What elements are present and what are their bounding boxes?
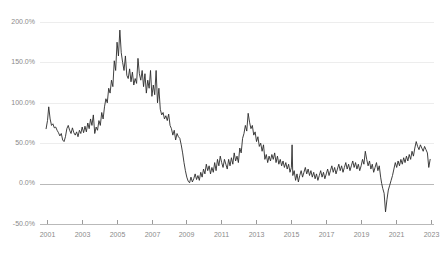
x-tick-label: 2017 <box>319 231 335 238</box>
x-tick-label: 2019 <box>354 231 370 238</box>
y-axis-tick-labels: -50.0%0.0%50.0%100.0%150.0%200.0% <box>11 18 35 227</box>
x-tick-label: 2013 <box>249 231 265 238</box>
data-series <box>46 30 430 212</box>
x-tick-label: 2023 <box>424 231 440 238</box>
x-tick-label: 2007 <box>145 231 161 238</box>
gridlines <box>40 23 434 185</box>
x-axis-tick-labels: 2001200320052007200920112013201520172019… <box>40 231 440 238</box>
y-tick-label: 0.0% <box>19 179 35 186</box>
x-tick-label: 2009 <box>179 231 195 238</box>
y-tick-label: 100.0% <box>11 99 35 106</box>
line-chart: -50.0%0.0%50.0%100.0%150.0%200.0% 200120… <box>0 0 442 259</box>
y-tick-label: 50.0% <box>15 139 35 146</box>
x-tick-label: 2015 <box>284 231 300 238</box>
x-tick-label: 2001 <box>40 231 56 238</box>
series-line <box>46 30 430 212</box>
x-tick-label: 2011 <box>214 231 229 238</box>
x-tick-label: 2021 <box>389 231 405 238</box>
x-axis-tick-marks <box>48 220 432 224</box>
y-tick-label: 150.0% <box>11 58 35 65</box>
x-tick-label: 2003 <box>75 231 91 238</box>
y-tick-label: 200.0% <box>11 18 35 25</box>
x-tick-label: 2005 <box>110 231 126 238</box>
chart-container: -50.0%0.0%50.0%100.0%150.0%200.0% 200120… <box>0 0 442 259</box>
y-tick-label: -50.0% <box>13 220 35 227</box>
